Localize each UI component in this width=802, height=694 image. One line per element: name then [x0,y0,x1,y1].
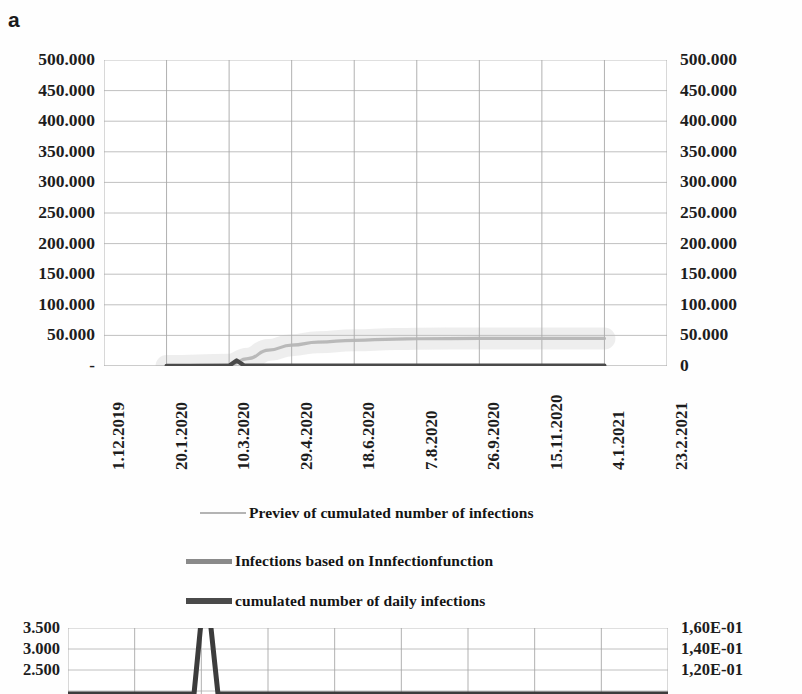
panel-a-left-tick-label: 500.000 [0,51,95,69]
legend-color-swatch [186,559,232,564]
panel-b-chart-canvas [68,628,668,694]
panel-a-x-tick-label: 18.6.2020 [360,402,377,470]
panel-a-chart-canvas [104,60,667,366]
panel-a-x-tick-label: 29.4.2020 [298,402,315,470]
panel-a-right-tick-label: 500.000 [680,51,737,69]
panel-a-left-tick-label: 200.000 [0,235,95,253]
legend-color-swatch [200,512,246,514]
legend-item-label: Previev of cumulated number of infection… [249,504,534,522]
panel-a-plot-area [104,60,667,366]
panel-a-label: a [8,8,19,32]
panel-a-right-tick-label: 400.000 [680,112,737,130]
panel-b-right-tick-label: 1,60E-01 [681,620,743,637]
panel-b-right-tick-label: 1,20E-01 [681,662,743,679]
panel-a-x-tick-label: 15.11.2020 [548,394,565,470]
panel-a-x-tick-label: 4.1.2021 [610,411,627,471]
panel-a-right-tick-label: 0 [680,357,689,375]
panel-b-left-tick-label: 3.500 [0,620,60,637]
panel-a-left-tick-label: 400.000 [0,112,95,130]
panel-a: a 500.000450.000400.000350.000300.000250… [0,0,802,596]
panel-a-right-tick-label: 450.000 [680,82,737,100]
panel-a-left-tick-label: 450.000 [0,82,95,100]
panel-a-right-tick-label: 350.000 [680,143,737,161]
panel-a-x-tick-label: 20.1.2020 [173,402,190,470]
panel-b-left-tick-label: 3.000 [0,641,60,658]
panel-a-x-tick-label: 10.3.2020 [235,402,252,470]
panel-a-right-tick-label: 250.000 [680,204,737,222]
panel-a-right-tick-label: 100.000 [680,296,737,314]
panel-a-right-tick-label: 150.000 [680,265,737,283]
panel-a-left-tick-label: 350.000 [0,143,95,161]
legend-item-label: Infections based on Innfectionfunction [235,552,493,570]
panel-b-right-tick-label: 1,40E-01 [681,641,743,658]
panel-b: b 3.5003.0002.500 1,60E-011,40E-011,20E-… [0,596,802,694]
panel-a-x-tick-label: 26.9.2020 [485,402,502,470]
panel-b-plot-area [68,628,668,694]
legend-item: Infections based on Innfectionfunction [186,552,493,570]
legend-item: Previev of cumulated number of infection… [200,504,534,522]
panel-a-left-tick-label: 300.000 [0,173,95,191]
panel-a-left-tick-label: 100.000 [0,296,95,314]
figure-container: a 500.000450.000400.000350.000300.000250… [0,0,802,694]
panel-a-x-tick-label: 23.2.2021 [673,402,690,470]
panel-a-x-tick-label: 7.8.2020 [423,411,440,471]
panel-a-left-tick-label: - [0,357,95,374]
panel-a-right-tick-label: 50.000 [680,326,728,344]
panel-a-left-tick-label: 150.000 [0,265,95,283]
panel-a-x-tick-label: 1.12.2019 [110,402,127,470]
panel-a-right-tick-label: 200.000 [680,235,737,253]
panel-a-left-tick-label: 50.000 [0,326,95,344]
panel-a-right-tick-label: 300.000 [680,173,737,191]
panel-b-left-tick-label: 2.500 [0,662,60,679]
panel-a-left-tick-label: 250.000 [0,204,95,222]
